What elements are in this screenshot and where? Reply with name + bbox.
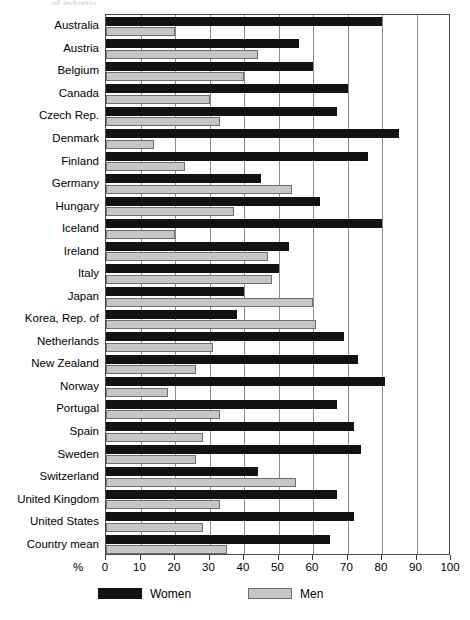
bar-row	[106, 511, 449, 536]
bar-row	[106, 263, 449, 288]
bar-men-united-states	[106, 523, 203, 532]
bar-women-belgium	[106, 62, 313, 71]
bar-men-ireland	[106, 252, 268, 261]
y-axis-label-new-zealand: New Zealand	[0, 357, 99, 369]
bar-women-germany	[106, 174, 261, 183]
bar-women-country-mean	[106, 535, 330, 544]
bar-women-austria	[106, 39, 299, 48]
bar-row	[106, 128, 449, 153]
bar-row	[106, 150, 449, 175]
bar-women-united-states	[106, 512, 354, 521]
bar-row	[106, 195, 449, 220]
bar-men-norway	[106, 388, 168, 397]
bar-row	[106, 173, 449, 198]
bar-men-italy	[106, 275, 272, 284]
bar-row	[106, 60, 449, 85]
legend-label-women: Women	[150, 587, 191, 601]
legend-swatch-men	[248, 588, 292, 599]
bar-women-italy	[106, 264, 279, 273]
bar-row	[106, 488, 449, 513]
x-tick-60	[312, 555, 313, 560]
y-axis-label-korea-rep-of: Korea, Rep. of	[0, 312, 99, 324]
bar-row	[106, 308, 449, 333]
y-axis-label-canada: Canada	[0, 87, 99, 99]
percent-symbol: %	[73, 561, 83, 574]
bar-women-ireland	[106, 242, 289, 251]
bar-men-united-kingdom	[106, 500, 220, 509]
y-axis-label-portugal: Portugal	[0, 402, 99, 414]
bar-men-new-zealand	[106, 365, 196, 374]
bar-women-denmark	[106, 129, 399, 138]
y-axis-label-netherlands: Netherlands	[0, 335, 99, 347]
y-axis-label-belgium: Belgium	[0, 64, 99, 76]
y-axis-label-sweden: Sweden	[0, 448, 99, 460]
bar-row	[106, 38, 449, 63]
x-tick-80	[381, 555, 382, 560]
bar-women-canada	[106, 84, 348, 93]
y-axis-label-iceland: Iceland	[0, 222, 99, 234]
bar-row	[106, 105, 449, 130]
bar-men-australia	[106, 27, 175, 36]
x-tick-70	[347, 555, 348, 560]
x-tick-50	[278, 555, 279, 560]
y-axis-label-spain: Spain	[0, 425, 99, 437]
bar-men-hungary	[106, 207, 234, 216]
bar-women-czech-rep	[106, 107, 337, 116]
y-axis-label-czech-rep: Czech Rep.	[0, 109, 99, 121]
x-tick-0	[105, 555, 106, 560]
bar-men-denmark	[106, 140, 154, 149]
bar-row	[106, 331, 449, 356]
bar-rows	[106, 15, 449, 554]
x-axis: 0102030405060708090100	[105, 555, 450, 577]
x-tick-100	[450, 555, 451, 560]
bar-row	[106, 286, 449, 311]
y-axis-label-ireland: Ireland	[0, 245, 99, 257]
x-tick-20	[174, 555, 175, 560]
bar-men-switzerland	[106, 478, 296, 487]
bar-men-portugal	[106, 410, 220, 419]
y-axis-label-hungary: Hungary	[0, 200, 99, 212]
x-tick-label-100: 100	[430, 561, 470, 574]
bar-row	[106, 15, 449, 40]
x-tick-40	[243, 555, 244, 560]
bar-men-japan	[106, 298, 313, 307]
bar-row	[106, 83, 449, 108]
y-axis-label-country-mean: Country mean	[0, 538, 99, 550]
x-tick-90	[416, 555, 417, 560]
bar-men-germany	[106, 185, 292, 194]
y-axis-label-germany: Germany	[0, 177, 99, 189]
y-axis-label-australia: Australia	[0, 19, 99, 31]
bar-row	[106, 466, 449, 491]
bar-row	[106, 218, 449, 243]
bar-women-korea-rep-of	[106, 310, 237, 319]
legend-label-men: Men	[300, 587, 323, 601]
bar-women-hungary	[106, 197, 320, 206]
bar-men-finland	[106, 162, 185, 171]
bar-women-united-kingdom	[106, 490, 337, 499]
y-axis-label-japan: Japan	[0, 290, 99, 302]
bar-men-spain	[106, 433, 203, 442]
cropped-title-text: of industry	[52, 0, 172, 5]
bar-men-austria	[106, 50, 258, 59]
bar-women-iceland	[106, 219, 382, 228]
x-tick-30	[209, 555, 210, 560]
bar-men-czech-rep	[106, 117, 220, 126]
bar-women-portugal	[106, 400, 337, 409]
bar-women-australia	[106, 17, 382, 26]
bar-row	[106, 240, 449, 265]
bar-men-korea-rep-of	[106, 320, 316, 329]
y-axis-category-labels: AustraliaAustriaBelgiumCanadaCzech Rep.D…	[0, 14, 99, 555]
bar-women-spain	[106, 422, 354, 431]
bar-women-norway	[106, 377, 385, 386]
y-axis-label-finland: Finland	[0, 155, 99, 167]
plot-area	[105, 14, 450, 555]
bar-row	[106, 443, 449, 468]
bar-men-belgium	[106, 72, 244, 81]
y-axis-label-norway: Norway	[0, 380, 99, 392]
y-axis-label-united-kingdom: United Kingdom	[0, 493, 99, 505]
bar-row	[106, 398, 449, 423]
bar-row	[106, 353, 449, 378]
bar-row	[106, 376, 449, 401]
y-axis-label-switzerland: Switzerland	[0, 470, 99, 482]
bar-chart: of industry AustraliaAustriaBelgiumCanad…	[0, 0, 470, 620]
